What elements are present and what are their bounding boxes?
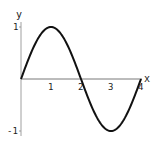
y-axis-label: y: [16, 9, 22, 20]
x-axis-label: x: [144, 73, 150, 84]
y-tick-label: 1: [13, 22, 18, 32]
sine-plot: y x 1 -1 1 2 3 4: [0, 0, 162, 151]
y-tick-label: -1: [7, 126, 18, 136]
x-tick-label: 1: [48, 82, 53, 92]
x-tick-label: 3: [108, 82, 113, 92]
